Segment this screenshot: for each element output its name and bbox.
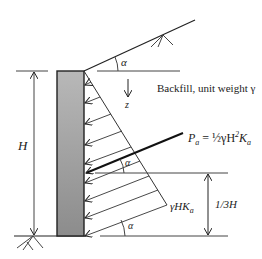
- resultant-height-label: 1/3H: [215, 198, 238, 210]
- z-label: z: [124, 99, 129, 110]
- ground-hatch-icon: [17, 236, 43, 250]
- resultant-angle-arc: [120, 159, 124, 173]
- base-angle-label: α: [128, 220, 134, 231]
- top-angle-arc: [115, 57, 118, 71]
- height-label: H: [17, 138, 28, 153]
- height-dimension: [16, 71, 48, 235]
- resultant-angle-label: α: [125, 157, 131, 168]
- backfill-label: Backfill, unit weight γ: [157, 82, 255, 94]
- top-angle-label: α: [121, 56, 127, 68]
- retaining-wall: [57, 71, 84, 236]
- base-pressure-label: γHKa: [170, 200, 194, 215]
- resultant-label: Pa = ½γH2Ka: [187, 130, 251, 147]
- slope-hatch-icon: [151, 35, 173, 47]
- retaining-wall-diagram: H α z Backfill, unit weight γ: [0, 0, 262, 259]
- base-angle-arc: [121, 220, 125, 236]
- ground-base: [14, 236, 86, 250]
- backfill-slope: [84, 20, 195, 71]
